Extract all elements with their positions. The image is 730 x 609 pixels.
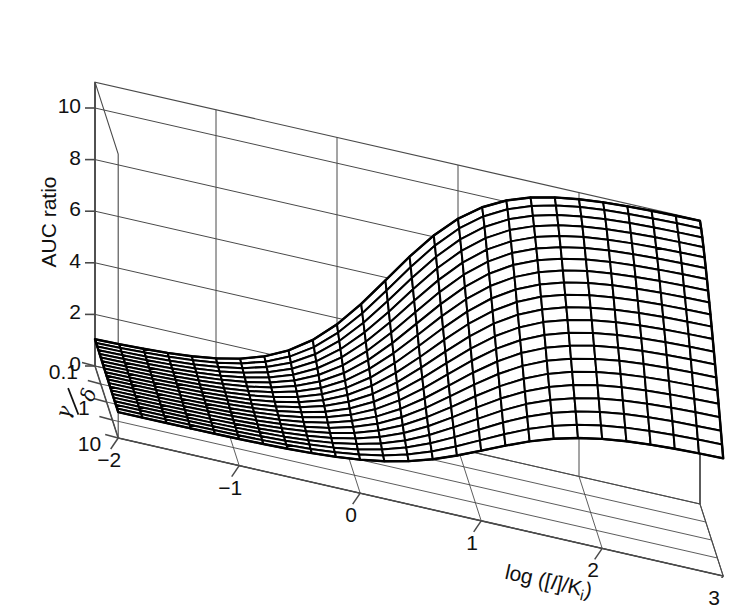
z-tick-label-8: 8 [69, 146, 81, 170]
mesh-cell [565, 295, 590, 308]
mesh-cell [563, 270, 588, 283]
mesh-cell [566, 307, 591, 320]
z-tick-label-2: 2 [69, 300, 81, 324]
mesh-cell [553, 425, 578, 439]
y-tick-label-10: 10 [78, 432, 101, 456]
y-axis-tick-0.5 [99, 417, 112, 421]
mesh-surface [95, 197, 723, 461]
z-tick-label-10: 10 [58, 94, 81, 118]
mesh-cell [573, 385, 598, 399]
x-tick-label-1: 1 [466, 531, 478, 555]
mesh-cell [551, 411, 576, 425]
mesh-cell [577, 425, 602, 439]
mesh-cell [568, 320, 593, 333]
svg-text:δ: δ [74, 385, 101, 404]
z-axis-title: AUC ratio [37, 177, 61, 268]
svg-text:γ: γ [50, 402, 77, 421]
x-axis-title-post: ) [582, 578, 594, 602]
mesh-cell [572, 372, 597, 385]
x-tick-label-neg1: −1 [218, 476, 242, 500]
mesh-cell [561, 247, 586, 259]
mesh-cell [571, 359, 596, 372]
mesh-cell [575, 398, 600, 412]
x-tick-label-0: 0 [345, 503, 357, 527]
mesh-cell [564, 283, 589, 296]
mesh-cell [570, 346, 595, 359]
z-tick-label-6: 6 [69, 197, 81, 221]
mesh-cell [569, 333, 594, 346]
y-axis-tick-1 [105, 435, 118, 439]
z-tick-label-4: 4 [69, 249, 81, 273]
x-tick-label-3: 3 [708, 586, 720, 609]
mesh-cell [576, 411, 601, 425]
mesh-cell [562, 259, 587, 271]
